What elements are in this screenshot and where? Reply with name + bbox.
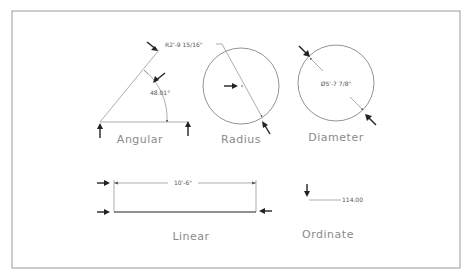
radius-title: Radius <box>221 133 261 146</box>
arrow-icon <box>153 73 165 83</box>
arrow-icon <box>97 123 103 138</box>
diameter-title: Diameter <box>308 131 363 144</box>
arrow-icon <box>224 83 238 89</box>
arrow-icon <box>259 208 272 214</box>
arrow-icon <box>365 114 376 125</box>
angle-value: 48.01° <box>150 89 170 96</box>
arrow-icon <box>262 121 270 134</box>
diameter-value: Ø5'-7 7/8" <box>321 80 352 87</box>
angular-title: Angular <box>117 133 163 146</box>
ordinate-title: Ordinate <box>302 228 354 241</box>
linear-title: Linear <box>172 230 209 243</box>
ordinate-value: 114.00 <box>342 196 363 203</box>
arrow-icon <box>185 121 191 136</box>
arrow-icon <box>147 42 158 51</box>
diameter-dimension: Ø5'-7 7/8" Diameter <box>298 45 376 144</box>
arrow-icon <box>97 180 110 186</box>
ordinate-dimension: 114.00 Ordinate <box>302 184 363 241</box>
angular-dimension: 48.01° Angular <box>97 42 191 146</box>
dimension-types-drawing: 48.01° Angular R2'-9 15/16" <box>0 0 470 278</box>
arrow-icon <box>304 184 310 197</box>
arrow-icon <box>97 209 110 215</box>
radius-dimension: R2'-9 15/16" Radius <box>165 41 279 146</box>
linear-value: 10'-6" <box>174 179 192 186</box>
radius-value: R2'-9 15/16" <box>165 41 203 48</box>
linear-dimension: 10'-6" Linear <box>97 179 272 243</box>
arrow-icon <box>299 46 310 57</box>
